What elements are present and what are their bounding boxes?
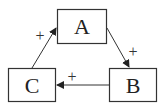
arrow-icon (107, 28, 129, 67)
edge-c-to-a: + (32, 27, 56, 68)
edge-a-b-polarity: + (128, 43, 137, 60)
edge-a-to-b: + (107, 28, 138, 67)
node-b: B (110, 69, 157, 102)
edge-b-c-polarity: + (67, 68, 76, 85)
node-a: A (58, 10, 107, 44)
edge-c-a-polarity: + (35, 27, 44, 44)
node-a-label: A (74, 14, 90, 39)
node-c: C (9, 69, 56, 102)
causal-loop-diagram: A B C + + + (0, 0, 168, 109)
node-c-label: C (25, 73, 40, 98)
edge-b-to-c: + (57, 68, 109, 85)
node-b-label: B (126, 73, 141, 98)
